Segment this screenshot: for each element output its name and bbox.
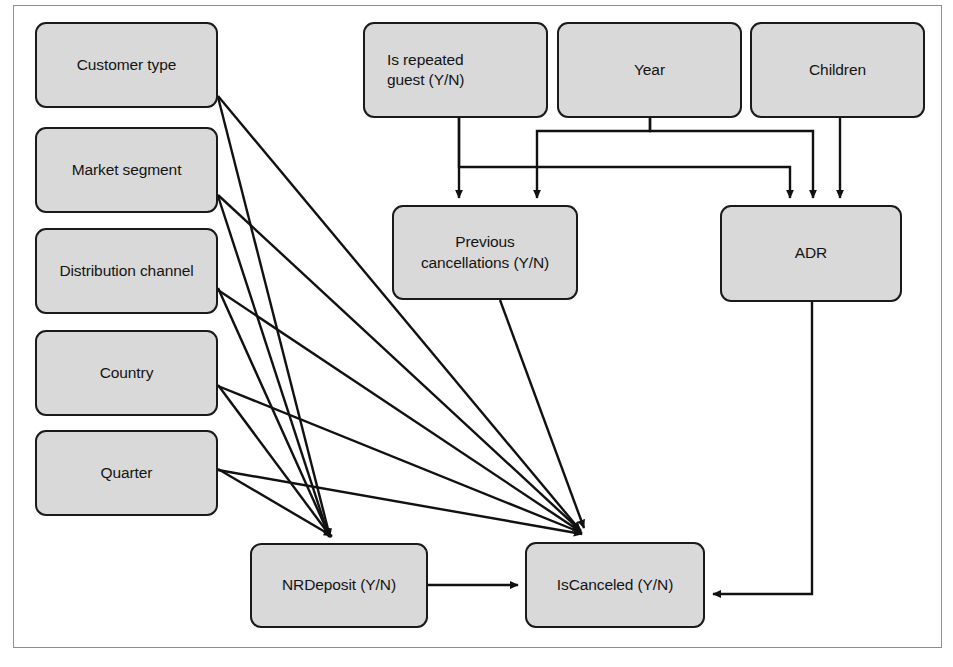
node-label: Distribution channel [45, 261, 208, 281]
node-market-segment[interactable]: Market segment [35, 127, 218, 213]
node-label: Market segment [45, 160, 208, 180]
node-year[interactable]: Year [557, 22, 742, 118]
node-label: Customer type [45, 55, 208, 75]
node-label: IsCanceled (Y/N) [535, 575, 695, 595]
node-previous-cancellations[interactable]: Previouscancellations (Y/N) [392, 205, 578, 300]
node-distribution-channel[interactable]: Distribution channel [35, 228, 218, 314]
node-customer-type[interactable]: Customer type [35, 22, 218, 108]
node-label: Year [567, 60, 732, 80]
diagram-canvas: Customer type Market segment Distributio… [0, 0, 953, 667]
node-label: Quarter [45, 463, 208, 483]
node-quarter[interactable]: Quarter [35, 430, 218, 516]
node-label: Is repeatedguest (Y/N) [387, 50, 538, 91]
node-is-repeated-guest[interactable]: Is repeatedguest (Y/N) [363, 22, 548, 118]
node-adr[interactable]: ADR [720, 205, 902, 302]
node-country[interactable]: Country [35, 330, 218, 416]
node-label: Previouscancellations (Y/N) [402, 232, 568, 273]
node-label: ADR [730, 243, 892, 263]
node-nr-deposit[interactable]: NRDeposit (Y/N) [250, 543, 428, 628]
node-children[interactable]: Children [750, 22, 925, 118]
node-is-canceled[interactable]: IsCanceled (Y/N) [525, 542, 705, 628]
node-label: Country [45, 363, 208, 383]
node-label: NRDeposit (Y/N) [260, 575, 418, 595]
node-label: Children [760, 60, 915, 80]
